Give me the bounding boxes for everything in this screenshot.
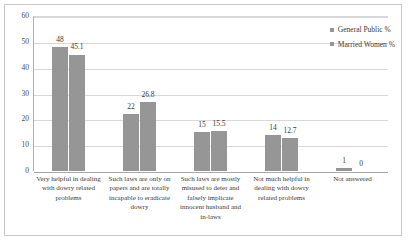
bar-value-label: 48 [56,36,64,44]
bar-value-label: 15 [198,121,206,129]
bar [52,47,68,171]
bar-value-label: 26.8 [141,91,154,99]
bar [265,135,281,171]
x-category-label: Such laws are only on papers and are tot… [106,175,173,213]
bar [282,138,298,171]
bar-value-label: 15.5 [212,120,225,128]
gridline-0 [34,172,388,173]
chart-legend: General Public %Married Women % [330,26,395,55]
bar [194,132,210,171]
legend-swatch-icon [330,28,334,32]
y-tick-label: 10 [3,141,29,149]
bar [336,168,352,171]
x-category-label: Very helpful in dealing with dowry relat… [35,175,102,203]
bar-value-label: 22 [127,103,135,111]
bar-value-label: 12.7 [283,127,296,135]
bar-value-label: 1 [342,157,346,165]
x-category-label: Not answered [319,175,386,184]
legend-swatch-icon [330,42,334,46]
y-tick-label: 30 [3,90,29,98]
bar-value-label: 14 [269,124,277,132]
legend-label: General Public % [338,26,391,34]
bar [123,114,139,171]
bar [69,55,85,172]
bar-chart: 0102030405060 4845.12226.81515.51412.710… [0,0,409,247]
y-tick-label: 50 [3,38,29,46]
y-axis: 0102030405060 [0,16,29,171]
y-tick-label: 40 [3,64,29,72]
x-axis-labels: Very helpful in dealing with dowry relat… [33,175,388,237]
bar [211,131,227,171]
y-tick-label: 0 [3,167,29,175]
legend-item[interactable]: Married Women % [330,41,395,49]
bar [140,102,156,171]
bar-value-label: 45.1 [70,43,83,51]
legend-item[interactable]: General Public % [330,26,395,34]
legend-label: Married Women % [338,41,395,49]
bar-value-label: 0 [359,160,363,168]
y-tick-label: 60 [3,12,29,20]
x-category-label: Such laws are mostly misused to deter an… [177,175,244,222]
x-category-label: Not much helpful in dealing with dowry r… [248,175,315,203]
y-tick-label: 20 [3,116,29,124]
